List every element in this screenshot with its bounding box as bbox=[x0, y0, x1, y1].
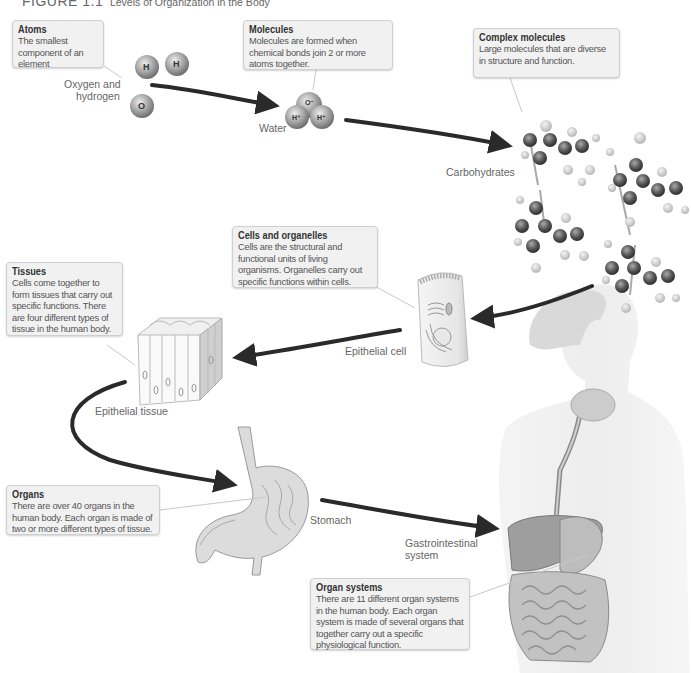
callout-title: Tissues bbox=[12, 266, 109, 278]
hydrogen-atom-2: H bbox=[173, 58, 180, 70]
label-water: Water bbox=[259, 122, 287, 134]
epithelial-cell-illustration bbox=[418, 273, 468, 367]
label-stomach: Stomach bbox=[310, 514, 351, 526]
water-oxygen-atom: O⁻ bbox=[305, 97, 314, 109]
callout-body: Cells are the structural and functional … bbox=[238, 242, 372, 288]
callout-title: Complex molecules bbox=[479, 32, 603, 44]
label-epithelial-tissue: Epithelial tissue bbox=[95, 405, 168, 417]
water-hydrogen-atom-1: H⁺ bbox=[292, 112, 301, 124]
human-body-figure bbox=[499, 284, 690, 673]
callout-body: The smallest component of an element bbox=[18, 36, 98, 71]
oxygen-atom: O bbox=[138, 100, 145, 112]
arrow-atoms-to-water bbox=[152, 85, 272, 105]
callout-title: Organs bbox=[12, 489, 143, 501]
callout-body: There are over 40 organs in the human bo… bbox=[12, 501, 154, 536]
callout-body: Molecules are formed when chemical bonds… bbox=[249, 36, 387, 71]
callout-title: Molecules bbox=[249, 24, 376, 36]
callout-organs: Organs There are over 40 organs in the h… bbox=[6, 485, 160, 535]
label-carbohydrates: Carbohydrates bbox=[446, 166, 515, 178]
carbohydrate-illustration bbox=[514, 120, 689, 313]
callout-title: Cells and organelles bbox=[238, 230, 361, 242]
callout-complex-molecules: Complex molecules Large molecules that a… bbox=[473, 28, 620, 78]
label-gastrointestinal-line1: Gastrointestinal bbox=[405, 537, 478, 549]
callout-tissues: Tissues Cells come together to form tiss… bbox=[6, 262, 123, 336]
label-oxygen-and-hydrogen-line2: hydrogen bbox=[76, 90, 120, 102]
stomach-illustration bbox=[196, 427, 309, 575]
callout-organ-systems: Organ systems There are 11 different org… bbox=[310, 578, 470, 650]
callout-body: Large molecules that are diverse in stru… bbox=[479, 44, 614, 67]
epithelial-tissue-illustration bbox=[138, 318, 222, 405]
callout-molecules: Molecules Molecules are formed when chem… bbox=[243, 20, 393, 70]
hydrogen-atom-1: H bbox=[143, 61, 150, 73]
callout-title: Atoms bbox=[18, 24, 92, 36]
label-epithelial-cell: Epithelial cell bbox=[345, 345, 406, 357]
callout-body: Cells come together to form tissues that… bbox=[12, 278, 117, 336]
water-hydrogen-atom-2: H⁺ bbox=[317, 112, 326, 124]
arrow-water-to-carbohydrates bbox=[346, 120, 505, 145]
callout-atoms: Atoms The smallest component of an eleme… bbox=[12, 20, 104, 68]
callout-body: There are 11 different organ systems in … bbox=[316, 594, 464, 652]
callout-cells-and-organelles: Cells and organelles Cells are the struc… bbox=[232, 226, 378, 288]
label-gastrointestinal-line2: system bbox=[405, 549, 438, 561]
label-oxygen-and-hydrogen-line1: Oxygen and bbox=[64, 78, 121, 90]
callout-title: Organ systems bbox=[316, 582, 452, 594]
